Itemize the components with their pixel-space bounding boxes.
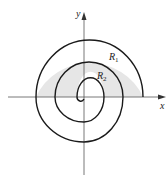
spiral-diagram: y x R1 R2 [0, 0, 168, 181]
x-axis-label: x [160, 101, 164, 111]
y-axis-arrow-icon [82, 12, 87, 20]
region-r2-label: R2 [97, 71, 107, 83]
y-axis-label: y [76, 9, 80, 19]
region-r1-subscript: 1 [115, 56, 119, 64]
region-r1-label: R1 [109, 52, 119, 64]
diagram-canvas [0, 0, 168, 181]
shaded-region [36, 63, 143, 97]
x-axis-arrow-icon [158, 95, 166, 100]
region-r2-subscript: 2 [103, 75, 107, 83]
